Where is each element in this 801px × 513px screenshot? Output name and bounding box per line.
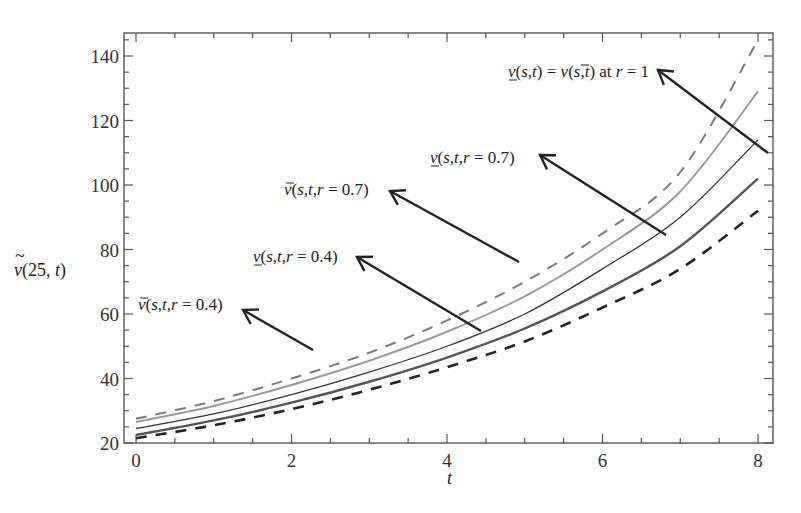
x-axis-label: t bbox=[447, 468, 453, 488]
x-tick-label: 8 bbox=[753, 450, 763, 471]
annotation-arrow bbox=[658, 70, 768, 153]
series-line-4 bbox=[136, 179, 758, 435]
svg-text:v(s,t,r = 0.7): v(s,t,r = 0.7) bbox=[430, 148, 515, 167]
y-tick-label: 140 bbox=[91, 46, 120, 67]
annotation-ann5: v(s,t,r = 0.4) bbox=[138, 295, 223, 314]
x-tick-label: 0 bbox=[131, 450, 141, 471]
svg-text:v(s,t,r = 0.4): v(s,t,r = 0.4) bbox=[253, 247, 338, 266]
y-tick-label: 80 bbox=[100, 240, 119, 261]
annotation-ann4: v(s,t,r = 0.4) bbox=[253, 247, 338, 266]
annotation-arrow bbox=[390, 191, 519, 262]
annotation-arrow bbox=[357, 257, 481, 331]
y-tick-label: 60 bbox=[100, 304, 119, 325]
series-line-5 bbox=[136, 211, 758, 438]
annotation-ann1: v(s,t) = v(s,t) at r = 1 bbox=[508, 62, 649, 81]
y-tick-label: 100 bbox=[91, 175, 120, 196]
series-line-3 bbox=[136, 140, 758, 429]
annotation-ann3: v(s,t,r = 0.7) bbox=[284, 180, 369, 199]
annotation-arrow bbox=[540, 155, 666, 235]
y-tick-label: 40 bbox=[100, 369, 119, 390]
y-axis: 20406080100120140 bbox=[91, 40, 774, 454]
annotation-labels: v(s,t) = v(s,t) at r = 1v(s,t,r = 0.7)v(… bbox=[138, 62, 649, 314]
tilde-mark: ~ bbox=[15, 246, 25, 266]
svg-text:v(s,t,r = 0.4): v(s,t,r = 0.4) bbox=[138, 295, 223, 314]
annotation-arrow bbox=[243, 310, 313, 350]
series-group bbox=[136, 40, 758, 438]
x-axis: 02468 bbox=[131, 33, 763, 471]
line-chart: 02468 20406080100120140 v(s,t) = v(s,t) … bbox=[0, 0, 801, 513]
annotation-ann2: v(s,t,r = 0.7) bbox=[430, 148, 515, 167]
y-tick-label: 120 bbox=[91, 111, 120, 132]
x-tick-label: 2 bbox=[287, 450, 297, 471]
y-tick-label: 20 bbox=[100, 433, 119, 454]
x-tick-label: 6 bbox=[598, 450, 608, 471]
svg-text:v(s,t,r = 0.7): v(s,t,r = 0.7) bbox=[284, 180, 369, 199]
svg-text:v(s,t) = v(s,t) at r = 1: v(s,t) = v(s,t) at r = 1 bbox=[508, 62, 649, 81]
plot-frame bbox=[124, 33, 773, 443]
